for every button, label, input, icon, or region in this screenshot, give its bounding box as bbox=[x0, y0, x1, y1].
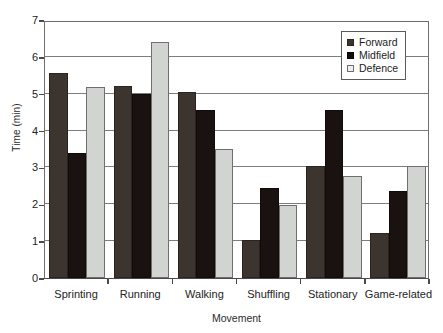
x-axis-tick bbox=[236, 279, 237, 284]
legend-item-defence: Defence bbox=[347, 62, 398, 75]
bar-stationary-defence bbox=[343, 176, 362, 278]
legend-swatch-midfield-icon bbox=[347, 52, 354, 59]
bar-game-related-defence bbox=[407, 166, 426, 278]
bar-running-forward bbox=[114, 86, 133, 278]
legend-label-defence: Defence bbox=[359, 63, 398, 74]
bar-walking-defence bbox=[215, 149, 234, 278]
bar-shuffling-defence bbox=[279, 205, 298, 278]
y-axis-tick-label: 7 bbox=[10, 15, 38, 26]
bar-shuffling-midfield bbox=[260, 188, 279, 278]
bar-shuffling-forward bbox=[242, 240, 261, 278]
bar-chart: Time (min) 01234567 SprintingRunningWalk… bbox=[0, 0, 443, 333]
x-axis-label-running: Running bbox=[108, 288, 172, 300]
bar-stationary-midfield bbox=[325, 110, 344, 278]
bar-running-defence bbox=[151, 42, 170, 278]
legend-swatch-forward-icon bbox=[347, 39, 354, 46]
x-axis-label-stationary: Stationary bbox=[301, 288, 365, 300]
bar-running-midfield bbox=[132, 94, 151, 278]
legend-item-forward: Forward bbox=[347, 36, 398, 49]
x-axis-label-sprinting: Sprinting bbox=[44, 288, 108, 300]
x-axis-tick bbox=[364, 279, 365, 284]
x-axis-label-shuffling: Shuffling bbox=[237, 288, 301, 300]
x-axis-title: Movement bbox=[44, 312, 429, 324]
x-axis-tick bbox=[428, 279, 429, 284]
bar-stationary-forward bbox=[306, 166, 325, 278]
bar-sprinting-midfield bbox=[68, 153, 87, 278]
bar-game-related-midfield bbox=[389, 191, 408, 278]
legend-item-midfield: Midfield bbox=[347, 49, 398, 62]
x-axis-tick bbox=[172, 279, 173, 284]
y-axis-tick-label: 1 bbox=[10, 236, 38, 247]
bar-sprinting-defence bbox=[86, 87, 105, 278]
legend-label-midfield: Midfield bbox=[359, 50, 395, 61]
x-axis-label-walking: Walking bbox=[172, 288, 236, 300]
y-axis-tick-label: 0 bbox=[10, 273, 38, 284]
x-axis-tick bbox=[300, 279, 301, 284]
bar-sprinting-forward bbox=[49, 73, 68, 278]
legend-label-forward: Forward bbox=[359, 37, 398, 48]
legend: Forward Midfield Defence bbox=[341, 31, 406, 80]
y-axis-tick-label: 2 bbox=[10, 199, 38, 210]
y-axis-tick-label: 4 bbox=[10, 126, 38, 137]
y-axis-tick-label: 3 bbox=[10, 162, 38, 173]
x-axis-tick bbox=[107, 279, 108, 284]
legend-swatch-defence-icon bbox=[347, 65, 354, 72]
bar-walking-midfield bbox=[196, 110, 215, 278]
y-axis-tick-label: 6 bbox=[10, 52, 38, 63]
bar-walking-forward bbox=[178, 92, 197, 278]
y-axis-tick-label: 5 bbox=[10, 89, 38, 100]
x-axis-label-game-related: Game-related bbox=[365, 288, 429, 300]
bar-game-related-forward bbox=[370, 233, 389, 278]
